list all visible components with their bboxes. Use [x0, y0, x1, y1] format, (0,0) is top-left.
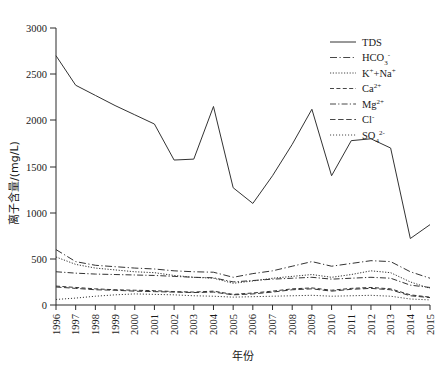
- x-tick-label: 2013: [385, 314, 396, 335]
- legend-label-2: K++Na+: [362, 67, 396, 79]
- x-tick-label: 2014: [405, 313, 416, 335]
- series-line-5: [56, 287, 430, 298]
- ion-content-line-chart: 3000 2500 2000 1500 1000 500 0 离子含量/(mg/…: [0, 0, 444, 368]
- x-tick-label: 2010: [326, 314, 337, 335]
- x-tick-label: 2006: [247, 314, 258, 335]
- x-tick-label: 2004: [208, 313, 219, 335]
- legend-label-1: HCO3-: [362, 51, 391, 67]
- x-axis-title: 年份: [232, 349, 254, 363]
- y-tick-label: 3000: [26, 23, 47, 34]
- x-tick-label: 2009: [306, 314, 317, 335]
- y-axis-tick-labels: 3000 2500 2000 1500 1000 500 0: [26, 23, 47, 311]
- x-tick-label: 1998: [90, 314, 101, 335]
- y-tick-label: 1000: [26, 208, 47, 219]
- series-lines: [56, 56, 430, 300]
- x-tick-label: 2015: [425, 314, 436, 335]
- y-axis-title: 离子含量/(mg/L): [7, 141, 21, 225]
- y-tick-label: 2000: [26, 115, 47, 126]
- x-tick-label: 2012: [366, 314, 377, 335]
- x-tick-label: 2011: [346, 314, 357, 335]
- legend-label-4: Mg2+: [362, 98, 384, 110]
- x-tick-label: 1999: [110, 314, 121, 335]
- x-tick-label: 2001: [149, 314, 160, 335]
- legend-label-3: Ca2+: [362, 82, 381, 94]
- y-axis-ticks: [50, 28, 56, 305]
- x-tick-label: 1996: [51, 314, 62, 335]
- legend-label-6: SO42-: [362, 129, 385, 145]
- x-tick-label: 2005: [228, 314, 239, 335]
- x-axis-tick-labels: 1996199719981999200020012002200320042005…: [51, 313, 436, 335]
- series-line-2: [56, 257, 430, 288]
- x-axis-ticks: [56, 305, 430, 310]
- x-tick-label: 2003: [188, 314, 199, 335]
- series-line-1: [56, 250, 430, 279]
- y-tick-label: 500: [31, 254, 47, 265]
- series-line-4: [56, 272, 430, 288]
- y-tick-label: 1500: [26, 162, 47, 173]
- x-tick-label: 2002: [169, 314, 180, 335]
- x-tick-label: 1997: [70, 314, 81, 335]
- legend-label-0: TDS: [362, 37, 382, 48]
- legend-label-5: Cl-: [362, 113, 375, 125]
- x-tick-label: 2008: [287, 314, 298, 335]
- y-tick-label: 0: [42, 300, 47, 311]
- chart-legend: TDSHCO3-K++Na+Ca2+Mg2+Cl-SO42-: [330, 37, 396, 145]
- x-tick-label: 2000: [129, 314, 140, 335]
- x-tick-label: 2007: [267, 314, 278, 335]
- y-tick-label: 2500: [26, 69, 47, 80]
- chart-figure: 3000 2500 2000 1500 1000 500 0 离子含量/(mg/…: [0, 0, 444, 368]
